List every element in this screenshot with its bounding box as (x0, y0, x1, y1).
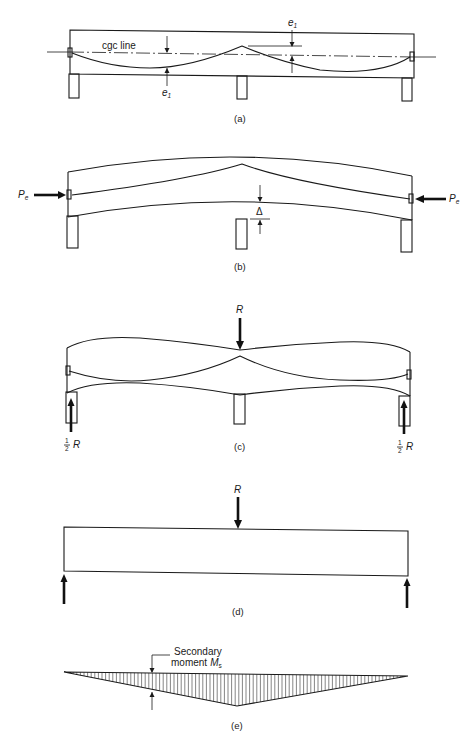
arrowhead-icon (150, 668, 155, 673)
svg-text:1: 1 (398, 439, 402, 446)
arrowhead-icon (165, 48, 170, 53)
arrowhead-icon (415, 195, 424, 203)
panel-e: Secondary momentMs (e) (64, 646, 408, 731)
prestressed-beam-diagram: e1 e1 cgc line (a) Pe Pe (0, 0, 473, 746)
beam-top-b (68, 157, 412, 176)
caption-a: (a) (234, 113, 246, 124)
svg-text:1: 1 (65, 437, 69, 444)
beam-bottom-b (68, 202, 412, 220)
caption-d: (d) (232, 606, 244, 617)
pe-label-right: Pe (449, 193, 460, 205)
arrowhead-icon (401, 400, 408, 408)
support-right-a (402, 78, 412, 101)
arrowhead-icon (258, 197, 263, 202)
support-center-c (234, 394, 245, 424)
e1-label-bottom: e1 (162, 87, 172, 99)
panel-b: Pe Pe Δ (b) (18, 157, 460, 272)
arrowhead-icon (68, 398, 75, 406)
support-left-b (67, 216, 78, 248)
arrowhead-icon (234, 520, 242, 529)
arrowhead-icon (150, 692, 155, 697)
moment-label-line1: Secondary (174, 646, 222, 657)
beam-d (64, 527, 408, 576)
tendon-b (72, 164, 410, 199)
arrowhead-icon (258, 220, 263, 225)
anchor-right-a (410, 52, 414, 61)
svg-text:2: 2 (398, 447, 402, 454)
panel-d: R (d) (61, 484, 411, 617)
r-label-c: R (236, 304, 243, 315)
support-right-b (401, 220, 412, 252)
arrowhead-icon (61, 574, 68, 582)
arrowhead-icon (404, 578, 411, 586)
svg-text:R: R (73, 439, 80, 450)
tendon-c (69, 356, 408, 381)
delta-label: Δ (256, 206, 263, 217)
support-center-a (237, 76, 247, 99)
cgc-line (70, 52, 414, 57)
panel-c: R 1 2 R 1 2 R (c) (64, 304, 413, 454)
e1-label-top: e1 (288, 17, 298, 29)
r-label-d: R (234, 484, 241, 495)
caption-e: (e) (231, 720, 243, 731)
svg-text:2: 2 (65, 445, 69, 452)
arrowhead-icon (58, 191, 66, 199)
arrowhead-icon (236, 341, 244, 350)
arrowhead-icon (165, 68, 170, 73)
panel-a: e1 e1 cgc line (a) (47, 17, 436, 124)
caption-c: (c) (234, 441, 245, 452)
cgc-label: cgc line (102, 40, 136, 51)
svg-text:R: R (406, 441, 413, 452)
half-r-label-right: 1 2 R (397, 439, 413, 454)
moment-diagram (64, 672, 408, 706)
arrowhead-icon (290, 56, 295, 61)
support-left-a (69, 74, 79, 98)
support-center-b (236, 219, 247, 249)
pe-label-left: Pe (18, 189, 29, 201)
moment-label-line2: momentMs (171, 657, 222, 669)
half-r-label-left: 1 2 R (64, 437, 80, 452)
caption-b: (b) (234, 261, 246, 272)
